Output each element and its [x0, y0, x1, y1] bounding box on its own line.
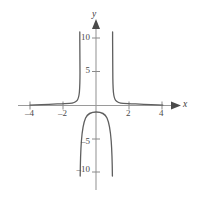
y-axis-label: y: [92, 10, 96, 20]
x-tick-label-2: 2: [126, 109, 131, 118]
y-tick-label-10: 10: [74, 33, 90, 42]
y-tick-label-5: 5: [78, 66, 90, 75]
y-tick-label--5: –5: [72, 137, 90, 146]
curve-right-outer-branch: [113, 32, 163, 105]
x-axis-label: x: [183, 100, 187, 110]
x-tick-label--4: –4: [25, 109, 34, 118]
curve-left-outer-branch: [30, 32, 80, 105]
x-axis-arrow-icon: [171, 102, 181, 110]
x-tick-label-4: 4: [159, 109, 164, 118]
plot-canvas: [0, 0, 197, 197]
function-graph-figure: –4 –2 2 4 10 5 –5 –10 y x: [0, 0, 197, 197]
y-axis-arrow-icon: [92, 19, 100, 29]
y-tick-label--10: –10: [68, 165, 90, 174]
x-tick-label--2: –2: [58, 109, 67, 118]
